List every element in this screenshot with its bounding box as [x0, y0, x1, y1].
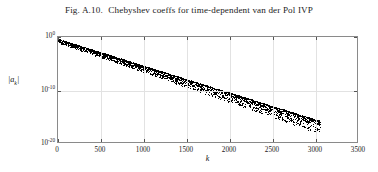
- data-point: [288, 118, 289, 119]
- data-point: [285, 119, 286, 120]
- data-point: [181, 85, 182, 86]
- data-point: [63, 43, 64, 44]
- data-point: [314, 131, 315, 132]
- data-point: [170, 79, 171, 80]
- x-tick-label: 1000: [136, 146, 150, 154]
- data-point: [291, 121, 292, 122]
- data-point: [87, 52, 88, 53]
- data-point: [297, 116, 298, 117]
- data-point: [288, 122, 289, 123]
- data-point: [269, 105, 270, 106]
- data-point: [294, 117, 295, 118]
- data-point: [81, 51, 82, 52]
- data-point: [253, 108, 254, 109]
- data-point: [172, 77, 173, 78]
- data-point: [281, 115, 282, 116]
- data-point: [159, 77, 160, 78]
- data-point: [195, 87, 196, 88]
- data-point: [211, 94, 212, 95]
- data-point: [237, 100, 238, 101]
- data-point: [86, 50, 87, 51]
- data-point: [156, 76, 157, 77]
- data-point: [261, 108, 262, 109]
- x-axis-tick: [101, 37, 102, 40]
- data-point: [222, 93, 223, 94]
- data-point: [294, 122, 295, 123]
- data-point: [138, 70, 139, 71]
- data-point: [290, 116, 291, 117]
- data-point: [155, 75, 156, 76]
- data-point: [106, 59, 107, 60]
- y-axis-tick: [58, 37, 61, 38]
- data-point: [244, 106, 245, 107]
- data-point: [134, 68, 135, 69]
- data-point: [305, 120, 306, 121]
- data-point: [194, 86, 195, 87]
- x-axis-tick: [187, 37, 188, 40]
- data-point: [200, 86, 201, 87]
- data-point: [227, 95, 228, 96]
- data-point: [240, 101, 241, 102]
- data-point: [252, 109, 253, 110]
- data-point: [78, 49, 79, 50]
- data-point: [149, 71, 150, 72]
- data-point: [263, 109, 264, 110]
- data-point: [217, 95, 218, 96]
- data-point: [309, 122, 310, 123]
- data-point: [204, 88, 205, 89]
- data-point: [239, 98, 240, 99]
- data-point: [93, 50, 94, 51]
- data-point: [153, 74, 154, 75]
- data-point: [320, 124, 321, 125]
- data-point: [170, 77, 171, 78]
- y-tick-label: 10-10: [41, 86, 55, 94]
- y-tick-exponent: -20: [48, 137, 55, 143]
- data-point: [245, 107, 246, 108]
- data-point: [102, 53, 103, 54]
- data-point: [283, 119, 284, 120]
- data-point: [103, 56, 104, 57]
- data-point: [234, 100, 235, 101]
- y-tick-exponent: 0: [52, 30, 55, 36]
- data-point: [214, 94, 215, 95]
- data-point: [298, 123, 299, 124]
- data-point: [222, 97, 223, 98]
- data-point: [218, 96, 219, 97]
- data-point: [145, 70, 146, 71]
- data-point: [256, 108, 257, 109]
- x-tick-label: 0: [55, 146, 59, 154]
- data-point: [275, 118, 276, 119]
- data-point: [82, 51, 83, 52]
- data-point: [94, 53, 95, 54]
- data-point: [263, 106, 264, 107]
- data-point: [313, 126, 314, 127]
- data-point: [191, 84, 192, 85]
- data-point: [238, 103, 239, 104]
- data-point: [112, 59, 113, 60]
- data-point: [282, 118, 283, 119]
- data-point: [172, 78, 173, 79]
- data-point: [190, 88, 191, 89]
- data-point: [205, 94, 206, 95]
- data-point: [304, 127, 305, 128]
- data-point: [295, 123, 296, 124]
- data-point: [278, 116, 279, 117]
- data-point: [138, 66, 139, 67]
- data-point: [255, 103, 256, 104]
- data-point: [86, 51, 87, 52]
- data-point: [190, 86, 191, 87]
- data-point: [227, 97, 228, 98]
- data-point: [224, 97, 225, 98]
- data-point: [254, 107, 255, 108]
- data-point: [226, 93, 227, 94]
- x-axis-tick: [144, 139, 145, 142]
- data-point: [310, 119, 311, 120]
- grid-line-vertical: [230, 37, 231, 142]
- data-point: [295, 117, 296, 118]
- data-point: [183, 81, 184, 82]
- x-axis-tick: [187, 139, 188, 142]
- data-point: [95, 56, 96, 57]
- data-point: [282, 119, 283, 120]
- data-point: [311, 125, 312, 126]
- data-point: [210, 93, 211, 94]
